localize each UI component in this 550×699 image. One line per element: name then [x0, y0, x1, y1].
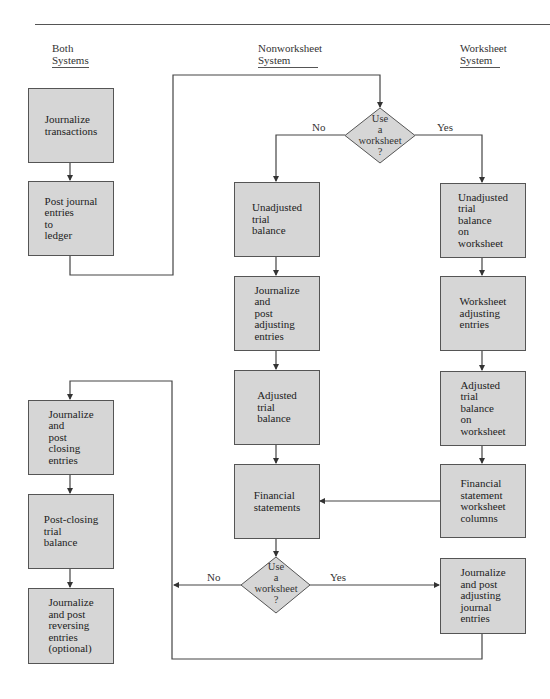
branch-label-yes: Yes: [437, 121, 453, 133]
node-financial-statements: Financial statements: [234, 464, 320, 539]
node-post-to-ledger: Post journal entries to ledger: [28, 181, 114, 256]
node-ws-journalize-adjusting: Journalize and post adjusting journal en…: [440, 558, 526, 634]
node-ws-unadjusted-trial-balance: Unadjusted trial balance on worksheet: [440, 183, 526, 258]
branch-label-yes: Yes: [330, 571, 346, 583]
node-reversing-entries: Journalize and post reversing entries (o…: [28, 588, 114, 664]
node-label: Journalize and post reversing entries (o…: [48, 597, 93, 655]
node-label: Unadjusted trial balance on worksheet: [458, 192, 508, 250]
branch-label-no: No: [312, 121, 325, 133]
node-ws-fs-columns: Financial statement worksheet columns: [440, 464, 526, 538]
node-unadjusted-trial-balance: Unadjusted trial balance: [234, 182, 320, 257]
branch-label-no: No: [207, 571, 220, 583]
node-ws-adjusting-entries: Worksheet adjusting entries: [440, 276, 526, 351]
node-journalize-post-adjusting: Journalize and post adjusting entries: [234, 276, 320, 351]
node-label: Journalize and post adjusting entries: [254, 285, 299, 343]
node-label: Post journal entries to ledger: [45, 196, 98, 242]
node-post-closing-trial-balance: Post-closing trial balance: [28, 494, 114, 569]
node-label: Post-closing trial balance: [44, 514, 98, 549]
decision-top-text: Use a worksheet ?: [345, 113, 415, 157]
node-adjusted-trial-balance: Adjusted trial balance: [234, 370, 320, 445]
node-label: Financial statement worksheet columns: [460, 478, 505, 524]
accounting-cycle-flowchart: Both Systems Nonworksheet System Workshe…: [0, 0, 550, 699]
node-label: Adjusted trial balance: [257, 390, 297, 425]
node-label: Financial statements: [254, 490, 300, 513]
node-closing-entries: Journalize and post closing entries: [28, 400, 114, 475]
decision-bottom-text: Use a worksheet ?: [241, 561, 311, 605]
node-label: Journalize and post adjusting journal en…: [460, 567, 505, 625]
node-label: Adjusted trial balance on worksheet: [460, 380, 505, 438]
node-label: Worksheet adjusting entries: [460, 296, 507, 331]
node-label: Journalize and post closing entries: [48, 409, 93, 467]
node-label: Journalize transactions: [45, 114, 98, 137]
node-label: Unadjusted trial balance: [252, 202, 302, 237]
node-ws-adjusted-trial-balance: Adjusted trial balance on worksheet: [440, 371, 526, 446]
node-journalize-transactions: Journalize transactions: [28, 88, 114, 163]
